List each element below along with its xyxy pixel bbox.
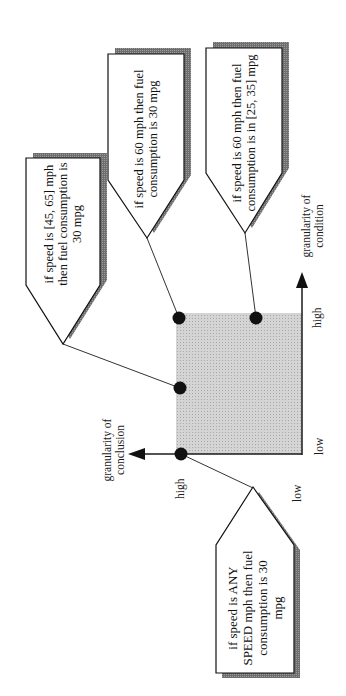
rule-text-interval-consumption: if speed is 60 mph then fuel consumption… — [210, 50, 278, 216]
point-rule-interval-speed — [174, 382, 187, 395]
condition-axis-title: granularity of condition — [300, 186, 326, 266]
rule-text-precise: if speed is 60 mph then fuel consumption… — [112, 56, 180, 222]
conclusion-axis-high-label: high — [174, 479, 187, 499]
conclusion-axis-title: granularity of conclusion — [101, 410, 127, 490]
condition-axis-arrow-icon — [296, 272, 308, 288]
conclusion-axis-title-line1: granularity of — [101, 410, 114, 490]
conclusion-axis-arrow-icon — [128, 448, 145, 460]
point-rule-interval-consumption — [250, 312, 263, 325]
condition-axis-high-label: high — [311, 308, 324, 328]
rule-text-any-speed: if speed is ANY SPEED mph then fuel cons… — [222, 548, 288, 668]
point-rule-precise — [173, 312, 186, 325]
conclusion-axis-low-label: low — [291, 485, 304, 502]
granularity-region — [176, 313, 302, 454]
condition-axis-title-line2: condition — [313, 186, 326, 266]
condition-axis-low-label: low — [313, 438, 326, 455]
rule-text-interval-speed: if speed is [45, 65] mph then fuel consu… — [30, 160, 96, 288]
conclusion-axis-title-line2: conclusion — [114, 410, 127, 490]
condition-axis-title-line1: granularity of — [300, 186, 313, 266]
point-rule-any-speed — [175, 448, 188, 461]
